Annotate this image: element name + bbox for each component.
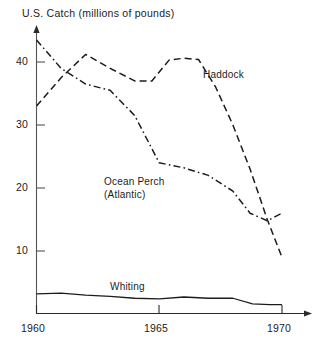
- series-label-whiting: Whiting: [110, 281, 145, 293]
- series-label-haddock: Haddock: [203, 69, 244, 81]
- x-tick-label-1970: 1970: [267, 322, 291, 334]
- x-tick-label-1960: 1960: [21, 322, 45, 334]
- series-layer: [37, 40, 283, 305]
- y-axis-ticks: [37, 62, 46, 251]
- series-path-ocean-perch-atlantic: [37, 40, 283, 221]
- series-label-ocean-perch-atlantic: (Atlantic): [104, 189, 145, 201]
- chart-container: U.S. Catch (millions of pounds) 40: [0, 0, 331, 347]
- x-axis: [36, 310, 312, 316]
- x-axis-right-arrow-icon: [304, 310, 312, 316]
- x-axis-ticks: [37, 305, 283, 314]
- y-axis-up-arrow-icon: [33, 25, 39, 33]
- chart-canvas: [0, 0, 331, 347]
- series-path-haddock: [37, 54, 283, 257]
- y-axis: [33, 25, 39, 314]
- series-label-ocean-perch: Ocean Perch: [104, 176, 165, 188]
- y-tick-label-20: 20: [6, 181, 28, 193]
- y-tick-label-10: 10: [6, 244, 28, 256]
- y-tick-label-30: 30: [6, 118, 28, 130]
- series-path-whiting: [37, 293, 283, 304]
- x-tick-label-1965: 1965: [144, 322, 168, 334]
- y-tick-label-40: 40: [6, 55, 28, 67]
